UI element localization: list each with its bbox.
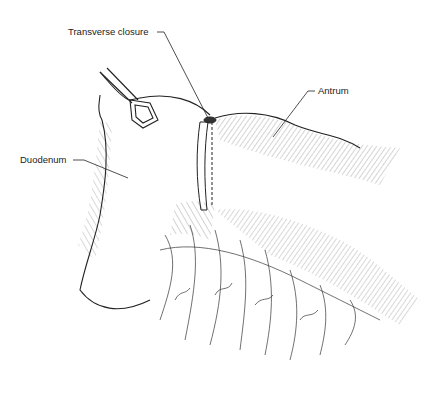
transverse-closure-suture	[197, 117, 216, 210]
duodenum-shading	[78, 120, 112, 260]
greater-curvature-shading	[215, 209, 420, 325]
label-duodenum: Duodenum	[20, 155, 66, 165]
label-transverse-closure: Transverse closure	[68, 27, 148, 37]
label-antrum: Antrum	[318, 86, 349, 96]
antrum-shading	[215, 116, 400, 185]
anatomical-illustration: Transverse closure Antrum Duodenum	[0, 0, 442, 398]
stomach-duodenum-drawing	[0, 0, 442, 398]
